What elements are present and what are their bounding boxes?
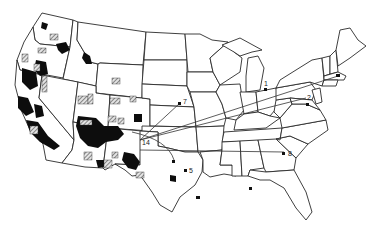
- site-gulf-1-marker: [196, 196, 200, 199]
- site-8-marker: [282, 152, 285, 155]
- label-hub-14: 14: [142, 139, 150, 146]
- state-north-dakota: [144, 32, 187, 60]
- label-site-1: 1: [264, 80, 268, 87]
- state-michigan: [246, 56, 264, 92]
- state-new-york: [276, 58, 324, 88]
- state-washington: [33, 13, 73, 47]
- state-florida: [248, 170, 312, 220]
- site-5-marker: [184, 169, 187, 172]
- site-massachusetts-marker: [336, 74, 340, 77]
- state-connecticut: [322, 80, 338, 86]
- label-site-5: 5: [189, 167, 193, 174]
- site-gulf-2-marker: [249, 187, 252, 190]
- site-2-marker: [306, 103, 309, 106]
- site-oklahoma-marker: [172, 160, 175, 163]
- label-site-7: 7: [183, 98, 187, 105]
- site-1-marker: [264, 88, 267, 91]
- us-map: 1 2 5 7 8 14: [0, 0, 371, 248]
- label-site-8: 8: [288, 150, 292, 157]
- site-7-marker: [178, 102, 181, 105]
- state-maine: [336, 28, 366, 66]
- state-boundaries: [15, 13, 366, 220]
- label-site-2: 2: [307, 94, 311, 101]
- state-kansas: [150, 105, 196, 127]
- state-south-dakota: [142, 60, 187, 86]
- state-arkansas: [196, 126, 224, 152]
